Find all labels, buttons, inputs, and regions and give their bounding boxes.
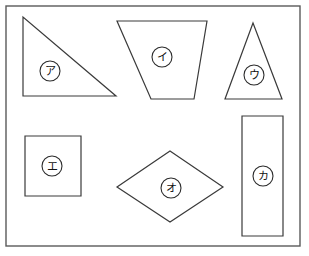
shapes-figure: ア イ ウ エ オ カ bbox=[0, 0, 309, 256]
shape-label-ka: カ bbox=[258, 170, 269, 183]
shape-label-a: ア bbox=[45, 65, 56, 78]
shape-label-o: オ bbox=[166, 182, 177, 195]
shape-label-u: ウ bbox=[249, 69, 260, 82]
shape-label-e: エ bbox=[47, 160, 58, 173]
shape-label-i: イ bbox=[157, 51, 168, 64]
shape-group-ka[interactable]: カ bbox=[242, 116, 283, 236]
shapes-worksheet: ア イ ウ エ オ カ bbox=[0, 0, 309, 256]
shape-group-e[interactable]: エ bbox=[25, 136, 81, 196]
